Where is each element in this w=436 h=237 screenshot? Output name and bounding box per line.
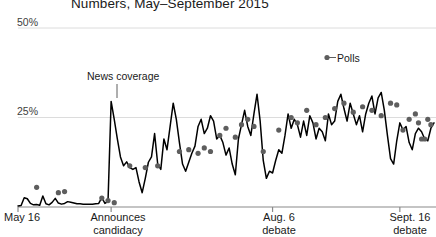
poll-dot: [202, 145, 207, 150]
poll-dot: [34, 185, 39, 190]
poll-dot: [186, 147, 191, 152]
poll-dot: [245, 117, 250, 122]
poll-dot: [304, 108, 309, 113]
poll-dot: [332, 106, 337, 111]
poll-dot: [407, 117, 412, 122]
poll-dot: [208, 149, 213, 154]
annotation-news-coverage: News coverage: [87, 70, 159, 82]
poll-dot: [388, 101, 393, 106]
poll-dot: [276, 127, 281, 132]
poll-dot: [56, 190, 61, 195]
poll-dot: [127, 163, 132, 168]
legend-dot-polls: [324, 55, 329, 60]
x-axis-tick-label-0: May 16: [4, 211, 40, 224]
poll-dot: [351, 110, 356, 115]
poll-dot: [155, 163, 160, 168]
poll-dot: [416, 120, 421, 125]
x-axis-tick-label-1-line2: candidacy: [90, 224, 145, 237]
poll-dot: [394, 102, 399, 107]
x-axis-tick-label-2-line1: Aug. 6: [262, 211, 296, 224]
poll-dot: [422, 136, 427, 141]
x-axis-tick-label-1: Announces candidacy: [90, 211, 145, 237]
poll-dot: [112, 200, 117, 205]
series-scatter-polls: [34, 101, 433, 206]
poll-dot: [233, 135, 238, 140]
x-axis-tick-label-3: Sept. 16 debate: [390, 211, 431, 237]
poll-dot: [251, 124, 256, 129]
poll-dot: [99, 195, 104, 200]
poll-dot: [369, 108, 374, 113]
poll-dot: [239, 122, 244, 127]
poll-dot: [400, 127, 405, 132]
poll-dot: [217, 133, 222, 138]
x-axis-tick-label-0-line1: May 16: [4, 211, 40, 224]
poll-dot: [360, 104, 365, 109]
x-axis-tick-label-3-line2: debate: [390, 224, 431, 237]
poll-dot: [223, 126, 228, 131]
x-axis-tick-label-2: Aug. 6 debate: [262, 211, 296, 237]
plot-area: [0, 0, 436, 237]
poll-dot: [195, 151, 200, 156]
poll-dot: [62, 189, 67, 194]
poll-dot: [323, 115, 328, 120]
poll-dot: [261, 149, 266, 154]
poll-dot: [177, 149, 182, 154]
x-axis-tick-label-1-line1: Announces: [90, 211, 145, 224]
poll-dot: [425, 117, 430, 122]
chart-container: Numbers, May–September 2015 50% 25% News…: [0, 0, 436, 237]
poll-dot: [379, 113, 384, 118]
poll-dot: [289, 115, 294, 120]
poll-dot: [341, 101, 346, 106]
annotation-polls: Polls: [337, 52, 360, 64]
poll-dot: [413, 111, 418, 116]
poll-dot: [143, 165, 148, 170]
poll-dot: [313, 122, 318, 127]
poll-dot: [428, 122, 433, 127]
x-axis-tick-label-2-line2: debate: [262, 224, 296, 237]
poll-dot: [295, 120, 300, 125]
x-axis-tick-label-3-line1: Sept. 16: [390, 211, 431, 224]
poll-dot: [105, 198, 110, 203]
